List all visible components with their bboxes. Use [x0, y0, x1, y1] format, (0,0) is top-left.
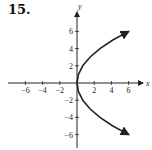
x-axis-label: x: [145, 79, 150, 88]
y-tick-label: 6: [69, 27, 73, 36]
x-tick-label: 4: [109, 86, 113, 95]
parabola-branch: [77, 31, 129, 83]
x-tick-label: −4: [38, 86, 47, 95]
parabola-branch: [77, 83, 129, 135]
y-tick-label: 4: [69, 45, 73, 54]
y-tick-label: 2: [69, 62, 73, 71]
x-tick-label: 2: [92, 86, 96, 95]
y-tick-label: −4: [64, 113, 73, 122]
y-tick-label: −6: [64, 131, 73, 140]
x-tick-label: −2: [56, 86, 65, 95]
y-axis-label: y: [77, 2, 82, 11]
y-tick-label: −2: [64, 96, 73, 105]
x-tick-label: −6: [21, 86, 30, 95]
x-tick-label: 6: [127, 86, 131, 95]
parabola-graph: xy−6−4−2246−6−4−2246: [0, 0, 152, 150]
